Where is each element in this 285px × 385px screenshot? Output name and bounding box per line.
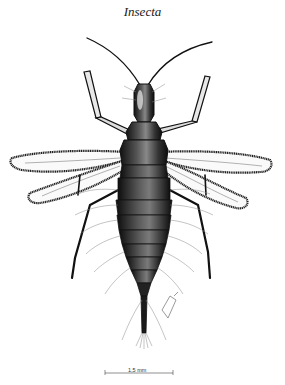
head — [134, 84, 154, 122]
artist-signature — [162, 292, 178, 318]
antennae — [87, 38, 212, 85]
right-wings — [160, 151, 272, 208]
scale-bar-label: 1,5 mm — [128, 367, 146, 373]
insect-illustration — [0, 0, 285, 385]
